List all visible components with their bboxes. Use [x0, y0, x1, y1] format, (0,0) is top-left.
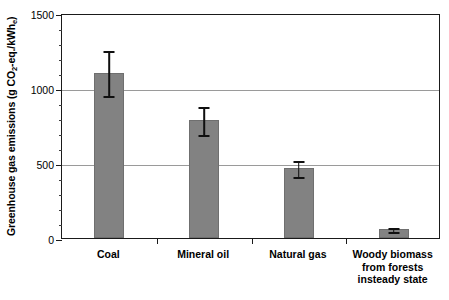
y-axis-tick	[56, 165, 62, 166]
y-axis-minor-tick	[59, 180, 63, 181]
y-axis-tick-label: 0	[48, 235, 54, 246]
error-bar-cap-upper	[104, 51, 115, 53]
y-axis-title-middle: -eq./kWh	[5, 24, 17, 67]
y-axis-minor-tick	[59, 45, 63, 46]
bar	[379, 229, 409, 238]
y-axis-minor-tick	[59, 30, 63, 31]
error-bar-cap-upper	[293, 161, 304, 163]
y-axis-minor-tick	[59, 150, 63, 151]
y-axis-title-text: Greenhouse gas emissions (g CO2-eq./kWhe…	[6, 16, 17, 236]
y-axis-minor-tick	[59, 60, 63, 61]
x-axis-separator-tick	[157, 238, 158, 244]
y-axis-tick-label: 1000	[31, 85, 54, 96]
y-axis-tick	[56, 15, 62, 16]
y-axis-tick	[56, 240, 62, 241]
y-axis-tick	[56, 90, 62, 91]
error-bar-cap-upper	[199, 107, 210, 109]
x-axis-category-label: Coal	[61, 248, 156, 261]
bar	[94, 73, 124, 238]
y-axis-title-sub-e: e	[10, 20, 19, 24]
y-axis-title-prefix: Greenhouse gas emissions (g CO	[5, 71, 17, 236]
y-axis-minor-tick	[59, 225, 63, 226]
x-axis-category-label: Natural gas	[251, 248, 346, 261]
bar	[189, 120, 219, 239]
y-axis-minor-tick	[59, 105, 63, 106]
plot-area: 050010001500	[61, 14, 440, 239]
x-axis-separator-tick	[346, 238, 347, 244]
x-axis-category-label: Woody biomass from forests insteady stat…	[345, 248, 440, 286]
x-axis-separator-tick	[252, 238, 253, 244]
y-axis-minor-tick	[59, 75, 63, 76]
y-axis-title-sub-co2: 2	[10, 67, 19, 71]
y-axis-title: Greenhouse gas emissions (g CO2-eq./kWhe…	[0, 0, 22, 252]
y-axis-minor-tick	[59, 210, 63, 211]
x-axis-category-label: Mineral oil	[156, 248, 251, 261]
y-axis-minor-tick	[59, 195, 63, 196]
chart-figure: Greenhouse gas emissions (g CO2-eq./kWhe…	[0, 0, 449, 300]
y-axis-tick-label: 1500	[31, 10, 54, 21]
y-axis-minor-tick	[59, 135, 63, 136]
y-axis-tick-label: 500	[36, 160, 54, 171]
y-axis-minor-tick	[59, 120, 63, 121]
bar	[284, 168, 314, 239]
